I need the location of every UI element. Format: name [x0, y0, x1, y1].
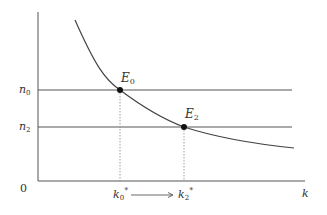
label-n2: n2: [19, 120, 31, 134]
label-k0-star: k0*: [113, 186, 128, 202]
label-E0: E0: [120, 71, 135, 86]
label-n0: n0: [19, 83, 31, 97]
origin-label: 0: [20, 182, 27, 195]
label-E2: E2: [184, 107, 199, 122]
point-E0: [117, 87, 123, 93]
diagram-canvas: E0 E2 n0 n2 0 k k0* k2*: [0, 0, 327, 215]
x-axis-label: k: [302, 187, 309, 200]
label-k2-star: k2*: [178, 186, 193, 202]
point-E2: [181, 124, 187, 130]
